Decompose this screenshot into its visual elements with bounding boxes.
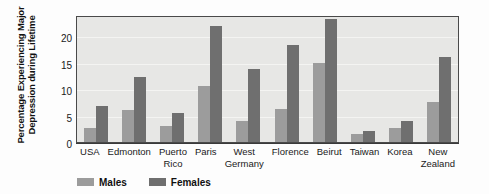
bar-west-germany-females xyxy=(248,69,260,142)
x-tick-korea: Korea xyxy=(387,146,412,158)
x-tick-label-line1: Puerto xyxy=(159,146,187,157)
y-tick-10: 10 xyxy=(61,86,72,97)
bar-group xyxy=(351,17,375,142)
x-tick-label-line2: Germany xyxy=(225,158,264,170)
bar-edmonton-males xyxy=(122,110,134,142)
bar-korea-males xyxy=(389,128,401,142)
legend-swatch-males xyxy=(77,178,94,186)
legend-item-females[interactable]: Females xyxy=(149,177,211,188)
bar-puerto-rico-males xyxy=(160,126,172,142)
bar-taiwan-females xyxy=(363,131,375,142)
x-axis-tick-labels: USAEdmontonPuertoRicoParisWestGermanyFlo… xyxy=(76,146,459,172)
plot-area xyxy=(76,16,459,143)
legend-item-males[interactable]: Males xyxy=(77,177,127,188)
x-tick-label-line1: USA xyxy=(80,146,100,157)
y-tick-15: 15 xyxy=(61,59,72,70)
x-tick-edmonton: Edmonton xyxy=(108,146,151,158)
x-tick-label-line1: Florence xyxy=(272,146,309,157)
x-tick-label-line1: Beirut xyxy=(317,146,342,157)
bar-beirut-females xyxy=(325,19,337,142)
x-tick-label-line2: Rico xyxy=(159,158,187,170)
x-axis-line xyxy=(76,143,459,144)
bar-taiwan-males xyxy=(351,134,363,142)
bar-korea-females xyxy=(401,121,413,142)
bar-new-zealand-males xyxy=(427,102,439,142)
bar-group xyxy=(313,17,337,142)
bar-group xyxy=(198,17,222,142)
x-tick-new-zealand: NewZealand xyxy=(421,146,455,170)
y-tick-20: 20 xyxy=(61,33,72,44)
x-tick-label-line1: Taiwan xyxy=(350,146,380,157)
x-tick-west-germany: WestGermany xyxy=(225,146,264,170)
bar-group xyxy=(160,17,184,142)
bar-group xyxy=(389,17,413,142)
bar-group xyxy=(84,17,108,142)
bar-edmonton-females xyxy=(134,77,146,142)
bar-florence-females xyxy=(287,45,299,142)
bar-west-germany-males xyxy=(236,121,248,142)
bar-usa-males xyxy=(84,128,96,142)
x-tick-label-line1: West xyxy=(233,146,254,157)
bar-new-zealand-females xyxy=(439,57,451,142)
x-tick-florence: Florence xyxy=(272,146,309,158)
bar-puerto-rico-females xyxy=(172,113,184,142)
legend-label: Females xyxy=(171,177,211,188)
x-tick-label-line1: New xyxy=(428,146,447,157)
bar-group xyxy=(122,17,146,142)
bar-paris-females xyxy=(210,26,222,142)
x-tick-beirut: Beirut xyxy=(317,146,342,158)
x-tick-label-line2: Zealand xyxy=(421,158,455,170)
bar-group xyxy=(275,17,299,142)
bar-paris-males xyxy=(198,86,210,142)
y-tick-0: 0 xyxy=(66,139,72,150)
bar-florence-males xyxy=(275,109,287,142)
legend-label: Males xyxy=(99,177,127,188)
x-tick-label-line1: Edmonton xyxy=(108,146,151,157)
x-tick-label-line1: Korea xyxy=(387,146,412,157)
y-axis-tick-labels: 05101520 xyxy=(46,17,72,143)
y-axis-title-line2: Depression during Lifetime xyxy=(27,15,38,134)
bar-usa-females xyxy=(96,106,108,142)
x-tick-usa: USA xyxy=(80,146,100,158)
y-tick-5: 5 xyxy=(66,112,72,123)
x-tick-taiwan: Taiwan xyxy=(350,146,380,158)
bar-group xyxy=(236,17,260,142)
bar-beirut-males xyxy=(313,63,325,142)
bar-groups xyxy=(77,17,458,142)
chart-legend: MalesFemales xyxy=(76,174,377,190)
depression-bar-chart: Percentage Experiencing Major Depression… xyxy=(0,0,489,194)
legend-swatch-females xyxy=(149,178,166,186)
x-tick-puerto-rico: PuertoRico xyxy=(159,146,187,170)
y-axis-title: Percentage Experiencing Major Depression… xyxy=(0,0,34,150)
x-tick-paris: Paris xyxy=(195,146,217,158)
x-tick-label-line1: Paris xyxy=(195,146,217,157)
bar-group xyxy=(427,17,451,142)
